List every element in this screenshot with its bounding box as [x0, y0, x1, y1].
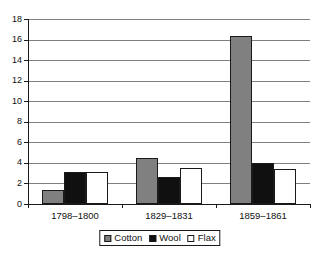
- legend-swatch-wool-icon: [149, 235, 156, 242]
- legend-label: Cotton: [114, 233, 142, 243]
- bars-layer: [28, 19, 310, 204]
- x-axis-category-label: 1859–1861: [216, 210, 310, 221]
- y-axis-tick-label: 6: [2, 138, 22, 147]
- y-axis-tick-label: 12: [2, 76, 22, 85]
- y-axis-tick-label: 4: [2, 158, 22, 167]
- axis-baseline: [28, 204, 310, 205]
- y-axis-tick-label: 14: [2, 56, 22, 65]
- chart-legend: CottonWoolFlax: [99, 230, 220, 246]
- y-axis-tick-label: 8: [2, 117, 22, 126]
- y-axis-tick-label: 18: [2, 15, 22, 24]
- y-axis-tick-label: 2: [2, 179, 22, 188]
- y-axis-tick-label: 10: [2, 97, 22, 106]
- x-axis-category-label: 1798–1800: [28, 210, 122, 221]
- legend-label: Wool: [159, 233, 180, 243]
- legend-item-wool[interactable]: Wool: [149, 233, 180, 243]
- x-axis-tick: [122, 204, 123, 208]
- legend-item-flax[interactable]: Flax: [188, 233, 216, 243]
- legend-label: Flax: [198, 233, 216, 243]
- y-axis-tick-label: 16: [2, 35, 22, 44]
- bar-flax-0: [86, 172, 108, 204]
- bar-wool-2: [252, 163, 274, 204]
- legend-swatch-cotton-icon: [104, 235, 111, 242]
- bar-wool-1: [158, 177, 180, 204]
- bar-cotton-1: [136, 158, 158, 204]
- y-axis-tick-label: 0: [2, 200, 22, 209]
- x-axis-tick: [310, 204, 311, 208]
- x-axis-category-label: 1829–1831: [122, 210, 216, 221]
- bar-cotton-2: [230, 36, 252, 204]
- bar-flax-1: [180, 168, 202, 204]
- legend-item-cotton[interactable]: Cotton: [104, 233, 142, 243]
- bar-wool-0: [64, 172, 86, 204]
- legend-swatch-flax-icon: [188, 235, 195, 242]
- x-axis-tick: [216, 204, 217, 208]
- bar-chart: 181614121086420 1798–18001829–18311859–1…: [0, 0, 320, 255]
- y-axis-labels: 181614121086420: [0, 19, 22, 205]
- bar-flax-2: [274, 169, 296, 204]
- bar-cotton-0: [42, 190, 64, 204]
- x-axis-tick: [28, 204, 29, 208]
